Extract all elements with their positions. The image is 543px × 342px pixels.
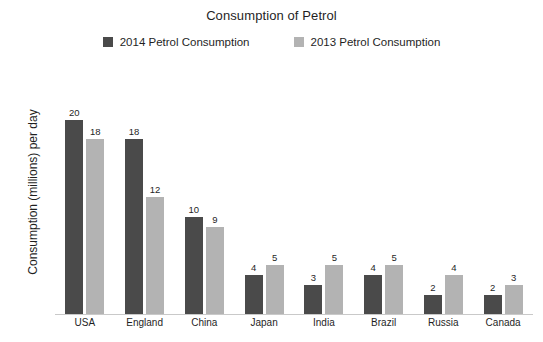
bar[interactable] <box>304 285 322 314</box>
x-axis-tick-label: Japan <box>234 317 294 328</box>
bar-wrapper: 20 <box>65 68 83 314</box>
legend-item-2014: 2014 Petrol Consumption <box>103 36 250 48</box>
bar-wrapper: 2 <box>424 68 442 314</box>
bar-group: 109 <box>175 68 235 314</box>
bar[interactable] <box>86 139 104 314</box>
bar-value-label: 5 <box>272 252 277 263</box>
bar[interactable] <box>484 295 502 314</box>
bar-wrapper: 12 <box>146 68 164 314</box>
bar-wrapper: 10 <box>185 68 203 314</box>
x-axis-tick-label: Russia <box>414 317 474 328</box>
bar-wrapper: 4 <box>364 68 382 314</box>
bar-value-label: 3 <box>511 272 516 283</box>
bar[interactable] <box>206 227 224 314</box>
bar[interactable] <box>325 265 343 314</box>
x-axis-tick-label: Canada <box>473 317 533 328</box>
x-axis-tick-label: Brazil <box>354 317 414 328</box>
bar-value-label: 4 <box>451 262 456 273</box>
bar-value-label: 12 <box>150 184 161 195</box>
bar-wrapper: 2 <box>484 68 502 314</box>
bar-value-label: 18 <box>90 126 101 137</box>
bar-group: 35 <box>294 68 354 314</box>
bar-value-label: 10 <box>189 204 200 215</box>
bar[interactable] <box>364 275 382 314</box>
legend-item-2013: 2013 Petrol Consumption <box>294 36 441 48</box>
bar-wrapper: 5 <box>266 68 284 314</box>
bar[interactable] <box>125 139 143 314</box>
bar-wrapper: 4 <box>245 68 263 314</box>
chart-container: Consumption of Petrol 2014 Petrol Consum… <box>0 0 543 342</box>
x-axis-tick-label: USA <box>55 317 115 328</box>
bar-value-label: 18 <box>129 126 140 137</box>
bar-group: 45 <box>354 68 414 314</box>
y-axis-title: Consumption (millions) per day <box>26 77 40 307</box>
bar[interactable] <box>65 120 83 314</box>
bar[interactable] <box>505 285 523 314</box>
bar-wrapper: 9 <box>206 68 224 314</box>
bar-group: 23 <box>473 68 533 314</box>
x-axis-tick-label: China <box>175 317 235 328</box>
bar-value-label: 2 <box>430 282 435 293</box>
bar-value-label: 5 <box>332 252 337 263</box>
bar[interactable] <box>245 275 263 314</box>
bar-value-label: 3 <box>311 272 316 283</box>
bar-value-label: 4 <box>251 262 256 273</box>
legend-swatch-2014 <box>103 37 113 47</box>
x-axis-labels: USAEnglandChinaJapanIndiaBrazilRussiaCan… <box>55 317 533 328</box>
bar[interactable] <box>424 295 442 314</box>
bar-wrapper: 5 <box>325 68 343 314</box>
legend-swatch-2013 <box>294 37 304 47</box>
x-axis-tick-label: India <box>294 317 354 328</box>
chart-legend: 2014 Petrol Consumption 2013 Petrol Cons… <box>0 36 543 48</box>
bar-value-label: 5 <box>391 252 396 263</box>
plot-area: 201818121094535452423 <box>55 68 533 315</box>
bar-value-label: 20 <box>69 107 80 118</box>
bar-wrapper: 3 <box>304 68 322 314</box>
bar-wrapper: 18 <box>125 68 143 314</box>
bar[interactable] <box>266 265 284 314</box>
bar[interactable] <box>385 265 403 314</box>
legend-label-2014: 2014 Petrol Consumption <box>120 36 250 48</box>
bar-value-label: 9 <box>212 214 217 225</box>
bar-group: 2018 <box>55 68 115 314</box>
bar-groups: 201818121094535452423 <box>55 68 533 314</box>
bar-value-label: 4 <box>370 262 375 273</box>
legend-label-2013: 2013 Petrol Consumption <box>311 36 441 48</box>
bar-wrapper: 3 <box>505 68 523 314</box>
bar-wrapper: 5 <box>385 68 403 314</box>
bar[interactable] <box>185 217 203 314</box>
bar-wrapper: 18 <box>86 68 104 314</box>
bar-group: 24 <box>414 68 474 314</box>
x-axis-line <box>55 314 533 315</box>
x-axis-tick-label: England <box>115 317 175 328</box>
bar-wrapper: 4 <box>445 68 463 314</box>
bar-group: 1812 <box>115 68 175 314</box>
bar[interactable] <box>445 275 463 314</box>
chart-title: Consumption of Petrol <box>0 8 543 23</box>
bar[interactable] <box>146 197 164 314</box>
bar-group: 45 <box>234 68 294 314</box>
bar-value-label: 2 <box>490 282 495 293</box>
